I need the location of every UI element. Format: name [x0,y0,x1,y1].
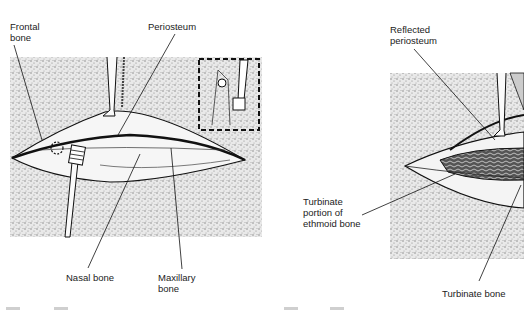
right-figure [362,49,524,281]
caption-fragment [284,307,298,310]
label-nasal-bone: Nasal bone [66,272,114,283]
label-maxillary-bone: Maxillary bone [158,272,195,294]
label-frontal-bone: Frontal bone [10,21,40,43]
caption-fragment [6,307,20,310]
caption-fragment [54,307,68,310]
left-figure [10,34,262,269]
caption-fragment [330,307,344,310]
label-turbinate-portion-ethmoid: Turbinate portion of ethmoid bone [303,196,361,229]
label-periosteum: Periosteum [148,21,196,32]
label-reflected-periosteum: Reflected periosteum [390,24,437,46]
illustration-canvas [0,0,524,311]
label-turbinate-bone: Turbinate bone [442,288,506,299]
